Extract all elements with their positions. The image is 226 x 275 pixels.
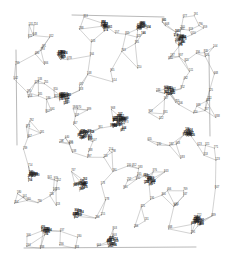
node-label: 383 <box>200 218 205 222</box>
node-label: 530 <box>157 142 162 146</box>
node-label: 838 <box>215 114 220 118</box>
node-label: 561 <box>50 107 55 111</box>
node-label: 807 <box>46 109 51 113</box>
node-label: 564 <box>90 52 95 56</box>
node-label: 183 <box>156 88 161 92</box>
node-label: 288 <box>79 26 84 30</box>
node-label: 755 <box>175 99 180 103</box>
network-graph-svg: 6014446862101956119762381099269327704995… <box>0 0 226 275</box>
node-label: 937 <box>179 53 184 57</box>
node-label: 714 <box>28 163 33 167</box>
node-label: 104 <box>213 44 218 48</box>
node-label: 905 <box>110 68 115 72</box>
node-label: 265 <box>181 25 186 29</box>
node-label: 322 <box>159 116 164 120</box>
node-label: 182 <box>109 242 114 246</box>
node-label: 506 <box>26 233 31 237</box>
node-label: 514 <box>174 33 179 37</box>
node-label: 876 <box>151 181 156 185</box>
node-label: 210 <box>137 65 142 69</box>
node-label: 325 <box>188 133 193 137</box>
node-label: 925 <box>164 85 169 89</box>
node-label: 550 <box>41 228 46 232</box>
node-label: 224 <box>150 176 155 180</box>
node-label: 314 <box>14 200 19 204</box>
node-label: 573 <box>101 181 106 185</box>
node-label: 238 <box>59 139 64 143</box>
node-label: 125 <box>144 180 149 184</box>
node-label: 831 <box>163 110 168 114</box>
node-label: 356 <box>196 50 201 54</box>
node-label: 318 <box>79 87 84 91</box>
node-label: 444 <box>101 20 106 24</box>
boundary-edges-layer <box>16 15 210 248</box>
node-label: 968 <box>111 106 116 110</box>
node-label: 343 <box>91 39 96 43</box>
node-label: 389 <box>87 107 92 111</box>
node-label: 462 <box>183 76 188 80</box>
node-label: 825 <box>141 204 146 208</box>
node-label: 215 <box>101 212 106 216</box>
node-label: 187 <box>170 53 175 57</box>
node-label: 860 <box>88 134 93 138</box>
node-label: 831 <box>204 49 209 53</box>
node-label: 843 <box>164 169 169 173</box>
node-label: 640 <box>65 135 70 139</box>
node-label: 973 <box>124 120 129 124</box>
node-label: 908 <box>165 22 170 26</box>
node-label: 298 <box>175 39 180 43</box>
node-label: 648 <box>33 32 38 36</box>
node-label: 461 <box>162 18 167 22</box>
node-label: 437 <box>60 228 65 232</box>
node-label: 300 <box>161 192 166 196</box>
node-label: 653 <box>143 173 148 177</box>
node-label: 534 <box>61 51 66 55</box>
node-label: 871 <box>26 124 31 128</box>
node-label: 813 <box>83 14 88 18</box>
node-label: 918 <box>59 55 64 59</box>
node-label: 839 <box>211 213 216 217</box>
node-label: 550 <box>127 163 132 167</box>
node-label: 647 <box>27 134 32 138</box>
node-label: 769 <box>183 187 188 191</box>
node-label: 307 <box>164 96 169 100</box>
node-label: 372 <box>136 34 141 38</box>
node-label: 278 <box>105 197 110 201</box>
node-label: 330 <box>77 234 82 238</box>
node-label: 724 <box>33 22 38 26</box>
node-label: 852 <box>180 85 185 89</box>
node-label: 936 <box>64 96 69 100</box>
node-label: 474 <box>113 237 118 241</box>
node-label: 195 <box>27 89 32 93</box>
node-label: 550 <box>191 31 196 35</box>
node-label: 861 <box>108 25 113 29</box>
node-label: 338 <box>88 148 93 152</box>
node-label: 330 <box>35 173 40 177</box>
node-label: 255 <box>44 80 49 84</box>
node-label: 747 <box>204 107 209 111</box>
node-label: 747 <box>71 168 76 172</box>
node-label: 245 <box>38 92 43 96</box>
node-label: 294 <box>102 24 107 28</box>
node-label: 678 <box>67 56 72 60</box>
node-label: 553 <box>203 152 208 156</box>
figure-canvas: 6014446862101956119762381099269327704995… <box>0 0 226 275</box>
node-label: 107 <box>92 138 97 142</box>
node-label: 711 <box>172 87 177 91</box>
node-label: 793 <box>40 47 45 51</box>
node-label: 557 <box>115 30 120 34</box>
node-label: 113 <box>103 154 108 158</box>
node-label: 257 <box>127 177 132 181</box>
node-label: 244 <box>26 243 31 247</box>
node-label: 803 <box>113 226 118 230</box>
node-label: 413 <box>56 202 61 206</box>
node-label: 480 <box>35 51 40 55</box>
node-label: 482 <box>141 25 146 29</box>
node-label: 812 <box>49 34 54 38</box>
node-label: 789 <box>180 40 185 44</box>
node-label: 226 <box>49 192 54 196</box>
node-label: 792 <box>29 118 34 122</box>
node-label: 281 <box>75 212 80 216</box>
node-label: 919 <box>54 176 59 180</box>
node-label: 583 <box>138 165 143 169</box>
